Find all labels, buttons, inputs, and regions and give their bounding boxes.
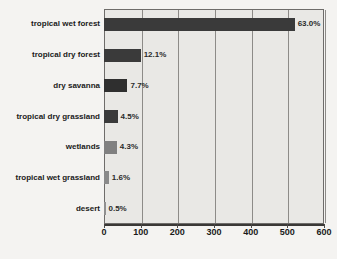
- bar: [104, 18, 295, 31]
- bar: [104, 110, 118, 123]
- category-label: wetlands: [0, 143, 100, 151]
- x-axis-tick-mark: [141, 224, 142, 228]
- x-axis-tick-mark: [287, 224, 288, 228]
- bar-value-label: 1.6%: [112, 174, 130, 182]
- x-axis-tick-label: 300: [206, 228, 221, 237]
- x-axis-tick-mark: [251, 224, 252, 228]
- category-label: dry savanna: [0, 82, 100, 90]
- bar-value-label: 4.3%: [120, 143, 138, 151]
- bar-row: 63.0%: [104, 18, 324, 31]
- bar-row: 12.1%: [104, 49, 324, 62]
- bar: [104, 79, 127, 92]
- bar-value-label: 7.7%: [130, 82, 148, 90]
- x-axis-tick-label: 0: [101, 228, 106, 237]
- category-label: tropical dry grassland: [0, 113, 100, 121]
- bar: [104, 171, 109, 184]
- category-label: tropical dry forest: [0, 51, 100, 59]
- bars-layer: 63.0%12.1%7.7%4.5%4.3%1.6%0.5%: [104, 9, 324, 224]
- x-axis-tick-label: 500: [280, 228, 295, 237]
- x-axis-tick-label: 400: [243, 228, 258, 237]
- x-axis-tick-mark: [177, 224, 178, 228]
- x-axis-tick-label: 600: [316, 228, 331, 237]
- gridline: [325, 10, 326, 223]
- bar: [104, 202, 106, 215]
- category-label: tropical wet grassland: [0, 174, 100, 182]
- bar-row: 7.7%: [104, 79, 324, 92]
- bar-chart: 63.0%12.1%7.7%4.5%4.3%1.6%0.5% 010020030…: [0, 0, 337, 259]
- bar-row: 4.3%: [104, 141, 324, 154]
- x-axis-tick-mark: [214, 224, 215, 228]
- bar: [104, 49, 141, 62]
- bar-value-label: 4.5%: [121, 113, 139, 121]
- bar-row: 4.5%: [104, 110, 324, 123]
- bar-value-label: 12.1%: [144, 51, 167, 59]
- x-axis-tick-mark: [324, 224, 325, 228]
- x-axis-tick-label: 200: [170, 228, 185, 237]
- x-axis-tick-labels: 0100200300400500600: [0, 228, 337, 246]
- bar-row: 1.6%: [104, 171, 324, 184]
- bar: [104, 141, 117, 154]
- bar-value-label: 63.0%: [298, 20, 321, 28]
- category-label: tropical wet forest: [0, 20, 100, 28]
- bar-row: 0.5%: [104, 202, 324, 215]
- category-label: desert: [0, 205, 100, 213]
- bar-value-label: 0.5%: [109, 205, 127, 213]
- x-axis-tick-label: 100: [133, 228, 148, 237]
- x-axis-tick-mark: [104, 224, 105, 228]
